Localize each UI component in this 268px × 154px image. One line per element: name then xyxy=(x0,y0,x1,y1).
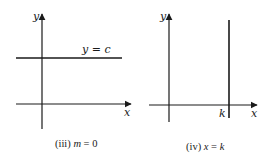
y-axis-label: y xyxy=(159,10,167,23)
caption-prefix: (iv) xyxy=(186,141,204,153)
caption-rest: = 0 xyxy=(81,138,97,149)
line-label: y = c xyxy=(81,43,111,56)
caption-prefix: (iii) xyxy=(55,138,73,150)
tick-label-k: k xyxy=(219,107,226,120)
caption-iii: (iii) m = 0 xyxy=(55,138,97,150)
panel-iii: y x y = c (iii) m = 0 xyxy=(16,10,131,150)
diagram-canvas: y x y = c (iii) m = 0 y x k (iv) x = k xyxy=(0,0,268,154)
caption-mid: = xyxy=(208,141,219,152)
caption-iv: (iv) x = k xyxy=(186,141,225,153)
x-axis-label: x xyxy=(124,106,131,119)
x-axis-label: x xyxy=(251,107,258,120)
panel-iv: y x k (iv) x = k xyxy=(149,10,258,153)
caption-var2: k xyxy=(220,141,225,152)
y-axis-label: y xyxy=(32,10,40,23)
